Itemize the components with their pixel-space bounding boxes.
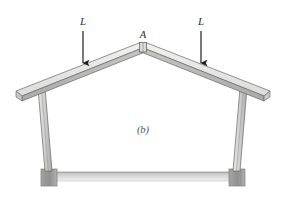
floor-slab bbox=[55, 172, 231, 181]
left-footing bbox=[41, 169, 57, 186]
apex-ridge-joint bbox=[140, 43, 147, 53]
structural-frame-diagram: L L A (b) bbox=[0, 0, 286, 202]
right-footing bbox=[229, 169, 245, 186]
apex-label: A bbox=[139, 29, 147, 40]
left-column bbox=[38, 88, 52, 171]
gable-frame-figure: L L A (b) bbox=[0, 0, 286, 202]
right-rafter bbox=[141, 43, 270, 101]
left-load-label: L bbox=[79, 15, 86, 27]
figure-part-label: (b) bbox=[137, 124, 150, 136]
right-load-label: L bbox=[197, 15, 204, 27]
left-rafter bbox=[16, 43, 145, 101]
right-column bbox=[233, 88, 247, 171]
